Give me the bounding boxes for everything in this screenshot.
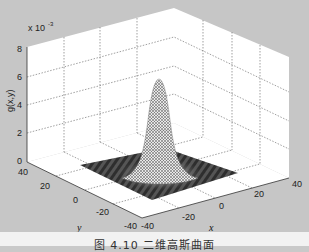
figure-caption: 图 4.10 二维高斯曲面 <box>0 236 309 252</box>
svg-text:8: 8 <box>17 44 22 54</box>
svg-text:2: 2 <box>17 128 22 138</box>
svg-text:0: 0 <box>17 156 22 166</box>
svg-text:20: 20 <box>254 189 264 199</box>
svg-text:20: 20 <box>40 181 50 191</box>
svg-text:4: 4 <box>17 100 22 110</box>
z-exponent: -3 <box>48 21 54 27</box>
z-exponent-label: x 10 <box>28 23 45 33</box>
svg-text:6: 6 <box>17 72 22 82</box>
z-ticks: 0 2 4 6 8 <box>17 44 22 166</box>
svg-text:-20: -20 <box>96 207 109 217</box>
svg-text:40: 40 <box>292 179 302 189</box>
svg-text:-40: -40 <box>141 221 154 231</box>
svg-text:0: 0 <box>73 195 78 205</box>
svg-text:-40: -40 <box>124 221 137 231</box>
z-axis-label: g(x,y) <box>5 89 15 112</box>
svg-text:-20: -20 <box>182 212 195 222</box>
svg-text:40: 40 <box>18 167 28 177</box>
svg-text:0: 0 <box>219 201 224 211</box>
